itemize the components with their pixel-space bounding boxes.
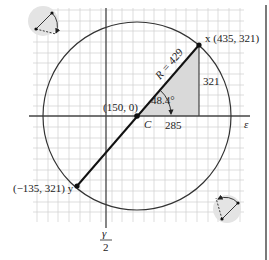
point-y-label: (−135, 321) y [13,182,74,195]
point-x-label: x (435, 321) [205,32,259,45]
center-point [134,113,140,119]
point-y [74,183,79,188]
mohr-circle-diagram: x (435, 321) (−135, 321) y (150, 0) C 28… [0,0,269,260]
rotation-cw-icon [213,195,241,223]
rotation-ccw-icon [28,6,58,36]
gamma-label: γ [102,227,107,239]
horizontal-leg-label: 285 [165,119,182,131]
vertical-leg-label: 321 [203,75,220,87]
gamma-denominator: 2 [103,241,109,253]
center-coords-label: (150, 0) [103,101,138,114]
point-x [196,42,201,47]
center-label: C [144,118,152,130]
angle-label: 48.4° [151,94,175,106]
epsilon-axis-label: ε [244,118,249,130]
